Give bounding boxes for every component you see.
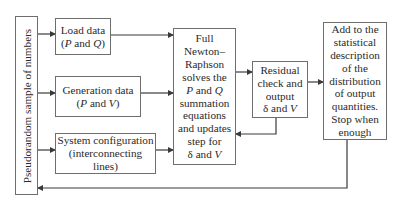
label-line: Load data	[61, 24, 105, 37]
label-line: δ and V	[257, 102, 302, 115]
label-line: (P and V)	[62, 97, 133, 110]
label-line: output	[257, 90, 302, 103]
node-system-configuration-label: System configuration(interconnecting lin…	[56, 134, 155, 173]
label-line: Residual	[257, 64, 302, 77]
node-generation-data: Generation data(P and V)	[55, 76, 141, 117]
label-line: distribution	[329, 75, 381, 88]
node-pseudorandom-label: Pseudorandom sample of numbers	[21, 28, 33, 182]
label-line: Newton–	[178, 45, 231, 58]
node-residual-check-label: Residualcheck andoutputδ and V	[257, 64, 302, 116]
label-line: step for	[178, 135, 231, 148]
edge-residual-newton	[236, 118, 276, 134]
node-load-data: Load data(P and Q)	[55, 18, 111, 55]
label-line: Raphson	[178, 58, 231, 71]
label-line: P and Q	[178, 84, 231, 97]
node-generation-data-label: Generation data(P and V)	[62, 84, 133, 110]
label-line: System configuration	[56, 134, 155, 147]
node-newton-raphson: FullNewton–Raphsonsolves theP and Qsumma…	[173, 28, 236, 165]
node-system-configuration: System configuration(interconnecting lin…	[55, 133, 156, 174]
label-line: Add to the	[329, 23, 381, 36]
node-newton-raphson-label: FullNewton–Raphsonsolves theP and Qsumma…	[178, 32, 231, 161]
label-line: summation	[178, 97, 231, 110]
label-line: solves the	[178, 71, 231, 84]
label-line: enough	[329, 126, 381, 139]
label-line: description	[329, 49, 381, 62]
label-line: Full	[178, 32, 231, 45]
label-line: Generation data	[62, 84, 133, 97]
label-line: of output	[329, 87, 381, 100]
label-line: Stop when	[329, 113, 381, 126]
label-line: equations	[178, 109, 231, 122]
label-line: and updates	[178, 122, 231, 135]
label-line: of the	[329, 62, 381, 75]
label-line: (P and Q)	[61, 37, 105, 50]
node-pseudorandom-sample: Pseudorandom sample of numbers	[15, 16, 38, 195]
node-statistics: Add to thestatisticaldescriptionof thedi…	[323, 22, 387, 140]
node-load-data-label: Load data(P and Q)	[61, 24, 105, 50]
label-line: δ and V	[178, 148, 231, 161]
label-line: check and	[257, 77, 302, 90]
label-line: statistical	[329, 36, 381, 49]
label-line: quantities.	[329, 100, 381, 113]
node-statistics-label: Add to thestatisticaldescriptionof thedi…	[329, 23, 381, 139]
label-line: (interconnecting lines)	[56, 147, 155, 173]
node-residual-check: Residualcheck andoutputδ and V	[252, 61, 308, 118]
